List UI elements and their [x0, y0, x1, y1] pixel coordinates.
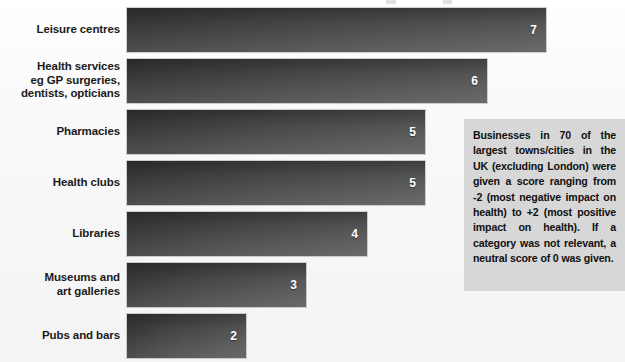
category-label-health-clubs: Health clubs [0, 176, 120, 190]
bar-leisure-centres: 7 [127, 8, 546, 52]
bar-museums-and-art-galleries: 3 [127, 263, 306, 307]
category-label-line: Health services [0, 60, 120, 74]
bar-libraries: 4 [127, 212, 367, 256]
bar-value-libraries: 4 [351, 227, 358, 241]
bar-value-leisure-centres: 7 [530, 23, 537, 37]
category-label-health-services: Health services eg GP surgeries, dentist… [0, 60, 120, 101]
bar-value-pubs-and-bars: 2 [230, 329, 237, 343]
bar-value-health-services: 6 [471, 74, 478, 88]
category-label-pubs-and-bars: Pubs and bars [0, 329, 120, 343]
bar-pharmacies: 5 [127, 110, 425, 154]
category-label-line: Museums and [0, 271, 120, 285]
methodology-note-text: Businesses in 70 of the largest towns/ci… [473, 128, 616, 267]
chart-row: Health services eg GP surgeries, dentist… [0, 59, 625, 103]
category-label-line: art galleries [0, 285, 120, 299]
methodology-note-box: Businesses in 70 of the largest towns/ci… [464, 119, 625, 291]
category-label-line: eg GP surgeries, [0, 74, 120, 88]
bar-value-pharmacies: 5 [409, 125, 416, 139]
bar-health-services: 6 [127, 59, 487, 103]
category-label-pharmacies: Pharmacies [0, 125, 120, 139]
bar-value-museums-and-art-galleries: 3 [290, 278, 297, 292]
bar-value-health-clubs: 5 [409, 176, 416, 190]
category-label-libraries: Libraries [0, 227, 120, 241]
chart-row: Leisure centres 7 [0, 8, 625, 52]
bar-health-clubs: 5 [127, 161, 425, 205]
chart-row: Pubs and bars 2 [0, 314, 625, 358]
category-label-leisure-centres: Leisure centres [0, 23, 120, 37]
category-label-museums-and-art-galleries: Museums and art galleries [0, 271, 120, 298]
bar-pubs-and-bars: 2 [127, 314, 246, 358]
category-label-line: dentists, opticians [0, 87, 120, 101]
